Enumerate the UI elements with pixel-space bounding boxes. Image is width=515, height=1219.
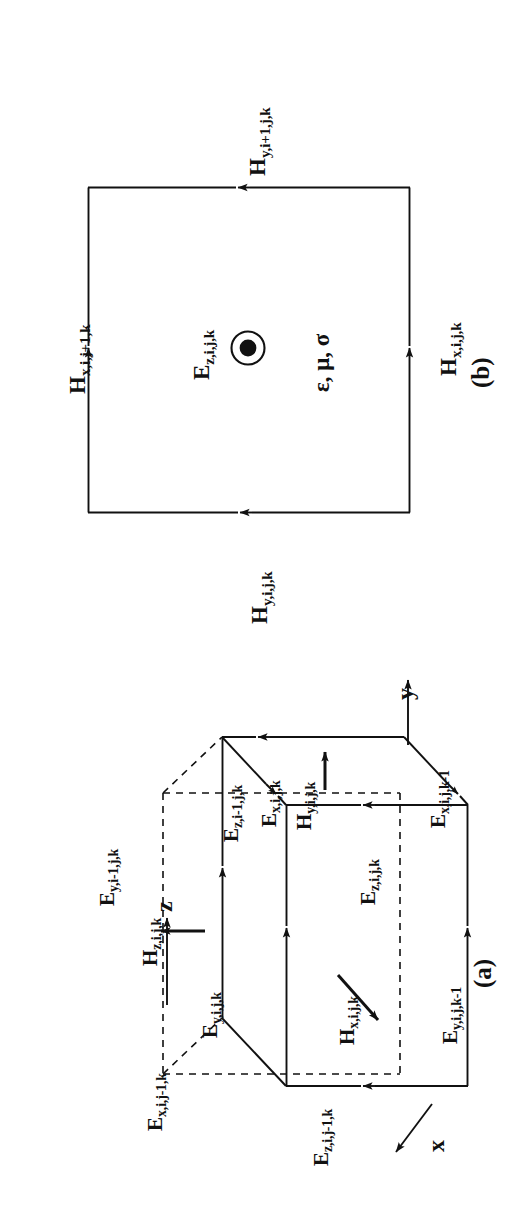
panel-a-label-ez-ij1k: Ez,i,j-1,k (311, 1109, 332, 1166)
panel-a-label-ex-ijk1: Ex,i,j,k-1 (428, 770, 449, 828)
axis-label-x: x (424, 1140, 448, 1152)
panel-a-label-hx-ijk: Hx,i,j,k (337, 996, 358, 1045)
panel-b-label-hx-left: Hx,i,j+1,k (66, 325, 89, 394)
panel-b-material-properties: ε, μ, σ (310, 334, 333, 392)
panel-b-label-ez-center: Ez,i,j,k (190, 330, 213, 380)
ez-out-of-page-symbol (232, 332, 265, 365)
panel-a-label-ey-ijk: Ey,i,j,k (200, 992, 221, 1038)
panel-b-tag: (b) (468, 357, 493, 388)
panel-a-tag: (a) (470, 959, 495, 988)
panel-a-label-ez-i1jk: Ez,i-1,j,k (221, 785, 242, 842)
axis-label-z: z (152, 901, 176, 912)
panel-b-label-hy-top: Hy,i+1,j,k (246, 107, 269, 176)
panel-a-label-ey-i1jk: Ey,i-1,j,k (97, 849, 118, 906)
panel-a-label-hz-ijk: Hz,i,j,k (140, 918, 161, 966)
panel-a-label-ex-ij1k: Ex,i,j-1,k (145, 1073, 166, 1131)
panel-a-cube (161, 680, 468, 1152)
axis-label-y: y (393, 688, 417, 700)
panel-b-label-hx-right: Hx,i,j,k (437, 323, 460, 377)
panel-a-label-hy-ijk: Hy,i,j,k (294, 782, 315, 830)
panel-a-label-ey-ijk1: Ey,i,j,k-1 (440, 987, 461, 1044)
panel-a-label-ex-ijk: Ex,i,j,k (259, 780, 280, 827)
panel-a-label-ez-ijk: Ez,i,j,k (358, 859, 379, 905)
coordinate-axes (167, 680, 432, 1152)
figure-canvas: Hy,i+1,j,k Hx,i,j+1,k Hx,i,j,k Hy,i,j,k … (0, 0, 515, 1219)
panel-b-label-hy-bottom: Hy,i,j,k (248, 571, 271, 624)
